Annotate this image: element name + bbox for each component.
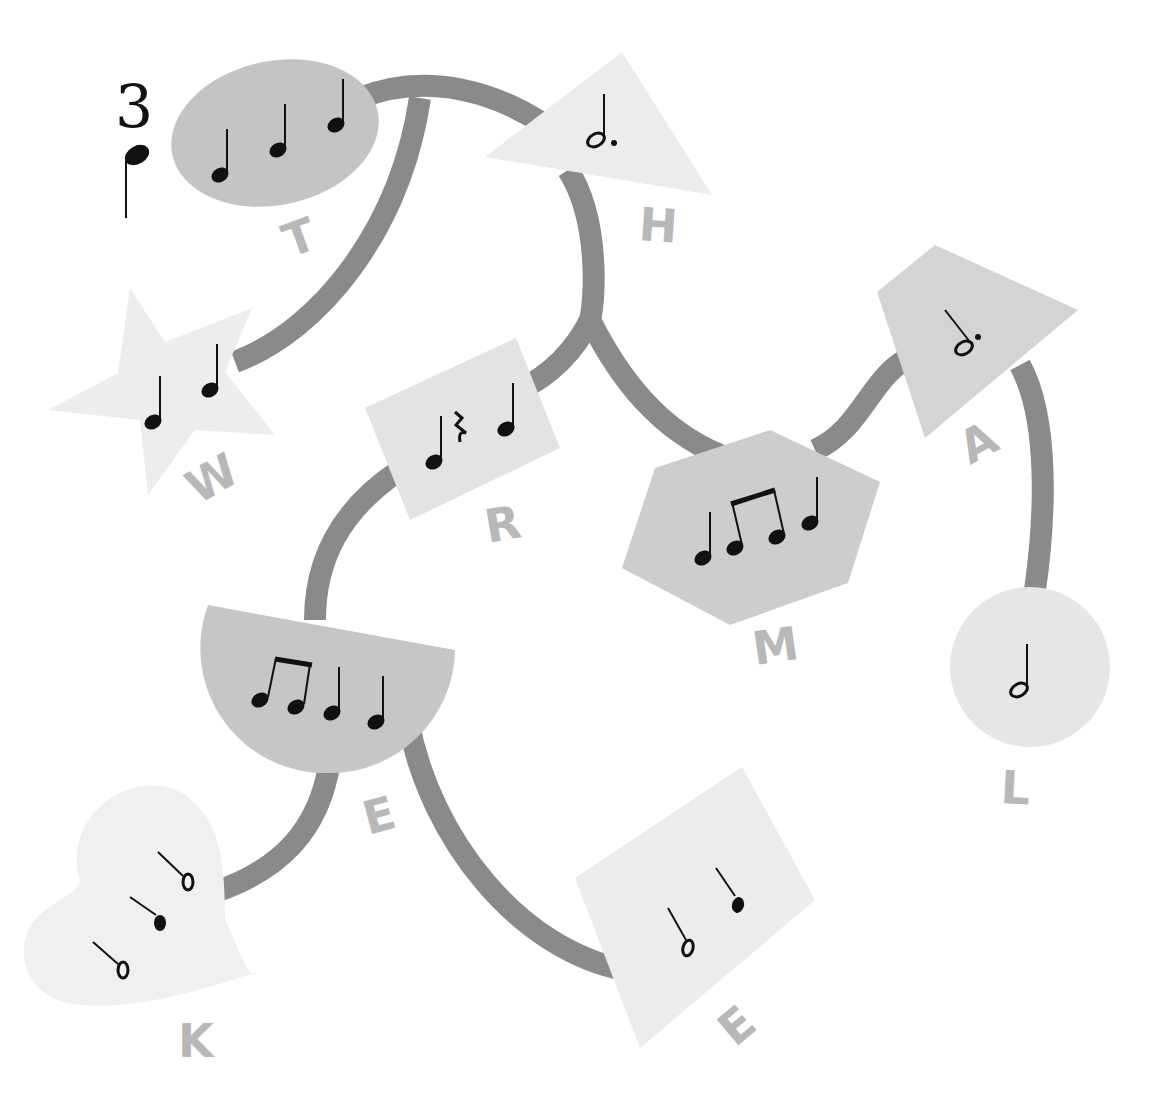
- node-W: W: [48, 288, 275, 515]
- letter-E: E: [357, 785, 401, 845]
- edge-H-R: [520, 170, 594, 390]
- star-shape: [48, 288, 275, 495]
- time-signature: 3: [115, 72, 153, 218]
- node-K: K: [24, 786, 258, 1068]
- triangle-shape: [485, 52, 712, 195]
- node-L: L: [950, 587, 1110, 816]
- edge-H-M: [590, 320, 720, 455]
- node-E2: E: [575, 767, 815, 1056]
- letter-A: A: [950, 410, 1007, 475]
- edge-M-A: [815, 360, 905, 450]
- letter-W: W: [177, 442, 248, 514]
- letter-E: E: [707, 995, 766, 1057]
- letter-T: T: [275, 207, 324, 269]
- edge-E1-E2: [408, 720, 625, 970]
- quarter-note-icon: [121, 141, 153, 218]
- letter-R: R: [481, 495, 525, 554]
- node-R: R: [365, 338, 560, 554]
- letter-K: K: [178, 1014, 216, 1068]
- diamond-shape: [575, 767, 815, 1048]
- rhythm-diagram: 3 T H W R: [0, 0, 1151, 1114]
- hexagon-shape: [622, 430, 880, 625]
- letter-L: L: [999, 760, 1031, 815]
- kite-shape: [877, 245, 1078, 438]
- edge-A-L: [1020, 365, 1043, 590]
- heart-shape: [24, 786, 258, 1006]
- edge-T-H: [360, 86, 545, 125]
- circle-shape: [950, 587, 1110, 747]
- ellipse-shape: [157, 41, 392, 226]
- node-M: M: [622, 430, 880, 676]
- letter-H: H: [637, 197, 679, 254]
- edge-R-E1: [315, 470, 400, 620]
- node-T: T: [157, 41, 392, 269]
- time-signature-top: 3: [115, 72, 153, 142]
- connector-paths: [215, 86, 1043, 970]
- edge-E1-K: [215, 760, 330, 892]
- letter-M: M: [749, 616, 802, 676]
